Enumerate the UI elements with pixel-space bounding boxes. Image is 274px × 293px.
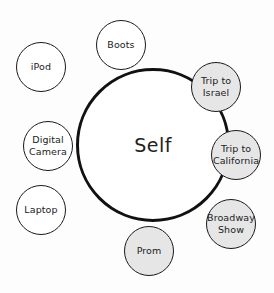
node-laptop: Laptop	[16, 185, 66, 235]
node-label: Boots	[107, 39, 134, 51]
node-label-line-1: Digital	[29, 134, 67, 146]
self-label: Self	[134, 134, 172, 156]
node-boots: Boots	[96, 20, 146, 70]
node-broadway-show: Broadway Show	[206, 199, 256, 249]
node-label-line-2: Israel	[201, 87, 231, 99]
node-label: Prom	[137, 245, 162, 257]
node-label-line-1: Trip to	[201, 75, 231, 87]
node-label-line-2: California	[213, 155, 259, 167]
node-label: Laptop	[24, 204, 57, 216]
node-label-line-2: Camera	[29, 146, 67, 158]
node-prom: Prom	[124, 226, 174, 276]
node-label-line-1: Trip to	[213, 143, 259, 155]
node-label-line-1: Broadway	[207, 212, 255, 224]
node-label-line-2: Show	[207, 224, 255, 236]
node-ipod: iPod	[16, 42, 66, 92]
node-trip-to-california: Trip to California	[211, 130, 261, 180]
node-trip-to-israel: Trip to Israel	[191, 62, 241, 112]
node-label: iPod	[31, 61, 51, 73]
node-digital-camera: Digital Camera	[23, 121, 73, 171]
self-concept-diagram: Self iPod Boots Trip to Israel Digital C…	[0, 0, 274, 293]
